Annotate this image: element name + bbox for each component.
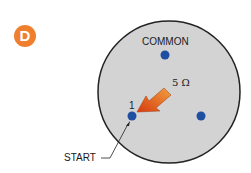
terminal-common — [161, 51, 170, 60]
terminal-1-label: 1 — [129, 100, 135, 111]
step-badge: D — [14, 25, 36, 47]
start-label: START — [64, 152, 96, 163]
terminal-1 — [128, 112, 137, 121]
terminal-3 — [197, 112, 206, 121]
common-label: COMMON — [142, 36, 189, 47]
resistance-label: 5 Ω — [172, 77, 190, 88]
ohmmeter-diagram — [0, 0, 251, 173]
